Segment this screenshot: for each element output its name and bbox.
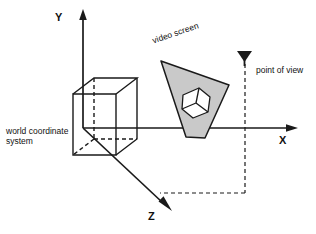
axis-label-y: Y bbox=[55, 12, 62, 22]
world-coordinate-system-label: world coordinate system bbox=[6, 126, 68, 146]
axis-y bbox=[79, 9, 87, 128]
world-coordinate-line-2: system bbox=[6, 136, 68, 146]
axis-label-x: X bbox=[279, 135, 286, 145]
viewpoint-icon bbox=[237, 51, 252, 66]
axis-label-z: Z bbox=[148, 211, 155, 221]
point-of-view-label: point of view bbox=[256, 65, 303, 75]
diagram-canvas: Y X Z world coordinate system video scre… bbox=[0, 0, 316, 234]
axis-z bbox=[83, 128, 172, 211]
world-coordinate-line-1: world coordinate bbox=[6, 126, 68, 136]
